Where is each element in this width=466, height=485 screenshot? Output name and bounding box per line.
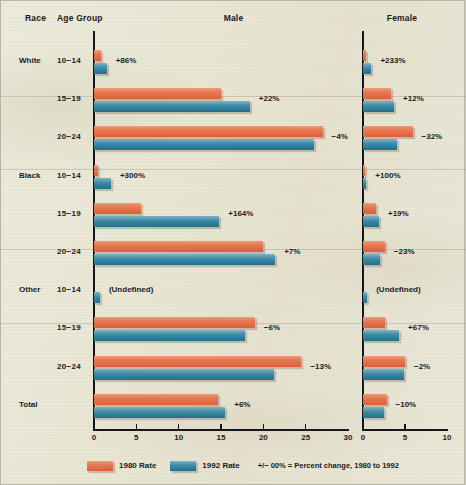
table-row: 20−24+7%−23% xyxy=(1,236,466,272)
male-axis-tick-label: 10 xyxy=(174,433,183,442)
age-group-label: 10−14 xyxy=(57,171,81,180)
male-axis-tick xyxy=(263,424,265,429)
male-bar-1992 xyxy=(94,254,275,265)
table-row: 15−19+164%+19% xyxy=(1,198,466,234)
male-panel-row: +164% xyxy=(94,198,348,234)
panel-header-female: Female xyxy=(356,13,448,23)
female-panel-row: +19% xyxy=(363,198,447,234)
male-axis-tick xyxy=(305,424,307,429)
female-panel-row: −10% xyxy=(363,389,447,425)
female-panel-row: +67% xyxy=(363,312,447,348)
female-bar-1980 xyxy=(363,126,413,137)
male-bar-1992 xyxy=(94,292,100,303)
male-panel-row: −4% xyxy=(94,121,348,157)
male-bar-1992 xyxy=(94,216,219,227)
table-row: Other10−14(Undefined)(Undefined) xyxy=(1,274,466,310)
male-axis-tick-label: 20 xyxy=(259,433,268,442)
legend-label-1992: 1992 Rate xyxy=(202,461,239,470)
legend-label-1980: 1980 Rate xyxy=(119,461,156,470)
female-percent-change-label: +100% xyxy=(375,171,400,180)
male-axis-tick xyxy=(136,424,138,429)
table-row: 20−24−4%−32% xyxy=(1,121,466,157)
male-bar-1992 xyxy=(94,330,245,341)
male-bar-1980 xyxy=(94,126,323,137)
male-percent-change-label: (Undefined) xyxy=(109,285,153,294)
male-bar-1980 xyxy=(94,88,221,99)
female-bar-1992 xyxy=(363,216,379,227)
male-axis-tick-label: 25 xyxy=(301,433,310,442)
male-bar-1980 xyxy=(94,165,98,176)
table-row: 15−19+22%+12% xyxy=(1,83,466,119)
race-label: White xyxy=(19,56,41,65)
male-percent-change-label: +6% xyxy=(234,400,250,409)
female-bar-1992 xyxy=(363,330,399,341)
female-panel-row: −32% xyxy=(363,121,447,157)
table-row: White10−14+86%+233% xyxy=(1,45,466,81)
male-percent-change-label: −13% xyxy=(310,362,331,371)
female-panel-row: +100% xyxy=(363,160,447,196)
male-panel-row: −6% xyxy=(94,312,348,348)
male-percent-change-label: −4% xyxy=(332,132,348,141)
age-group-label: 15−19 xyxy=(57,94,81,103)
female-percent-change-label: +233% xyxy=(380,56,405,65)
male-percent-change-label: +86% xyxy=(116,56,137,65)
legend-swatch-1992 xyxy=(170,461,196,471)
female-panel-row: (Undefined) xyxy=(363,274,447,310)
male-bar-1992 xyxy=(94,407,225,418)
male-panel-row: +86% xyxy=(94,45,348,81)
male-bar-1992 xyxy=(94,101,250,112)
male-panel-row: −13% xyxy=(94,351,348,387)
male-panel-row: (Undefined) xyxy=(94,274,348,310)
female-percent-change-label: −23% xyxy=(394,247,415,256)
male-bar-1980 xyxy=(94,356,301,367)
female-bar-1992 xyxy=(363,63,371,74)
female-panel-row: +233% xyxy=(363,45,447,81)
female-percent-change-label: −32% xyxy=(422,132,443,141)
female-bar-1980 xyxy=(363,356,405,367)
female-bar-1980 xyxy=(363,50,366,61)
female-axis-tick-label: 5 xyxy=(403,433,407,442)
male-bar-1980 xyxy=(94,203,141,214)
race-label: Total xyxy=(19,400,38,409)
age-group-label: 20−24 xyxy=(57,132,81,141)
table-row: 15−19−6%+67% xyxy=(1,312,466,348)
female-bar-1980 xyxy=(363,165,365,176)
legend-swatch-1980 xyxy=(87,461,113,471)
female-percent-change-label: (Undefined) xyxy=(376,285,420,294)
male-percent-change-label: +7% xyxy=(284,247,300,256)
table-row: Total+6%−10% xyxy=(1,389,466,425)
age-group-label: 15−19 xyxy=(57,209,81,218)
age-group-label: 15−19 xyxy=(57,323,81,332)
male-panel-row: +6% xyxy=(94,389,348,425)
female-axis-tick-label: 10 xyxy=(443,433,452,442)
female-bar-1980 xyxy=(363,394,387,405)
male-bar-1992 xyxy=(94,63,107,74)
male-panel-row: +22% xyxy=(94,83,348,119)
chart-legend: 1980 Rate1992 Rate+/− 00% = Percent chan… xyxy=(87,456,399,472)
female-panel-row: +12% xyxy=(363,83,447,119)
male-bar-1992 xyxy=(94,139,314,150)
female-bar-1992 xyxy=(363,101,394,112)
age-group-label: 20−24 xyxy=(57,362,81,371)
male-percent-change-label: +300% xyxy=(120,171,145,180)
female-percent-change-label: +67% xyxy=(408,323,429,332)
male-bar-1980 xyxy=(94,50,101,61)
male-bar-1992 xyxy=(94,178,111,189)
chart-plate: Race Age Group Male Female White10−14+86… xyxy=(1,1,464,484)
male-percent-change-label: +164% xyxy=(228,209,253,218)
female-bar-1992 xyxy=(363,407,384,418)
female-bar-1992 xyxy=(363,254,380,265)
female-panel-row: −23% xyxy=(363,236,447,272)
male-bar-1980 xyxy=(94,317,255,328)
female-percent-change-label: −10% xyxy=(396,400,417,409)
female-axis-tick-label: 0 xyxy=(361,433,365,442)
female-bar-1980 xyxy=(363,88,391,99)
male-bar-1980 xyxy=(94,241,263,252)
age-group-label: 10−14 xyxy=(57,285,81,294)
legend-note: +/− 00% = Percent change, 1980 to 1992 xyxy=(258,461,399,470)
age-group-label: 20−24 xyxy=(57,247,81,256)
table-row: Black10−14+300%+100% xyxy=(1,160,466,196)
female-bar-1992 xyxy=(363,292,367,303)
female-percent-change-label: +19% xyxy=(388,209,409,218)
